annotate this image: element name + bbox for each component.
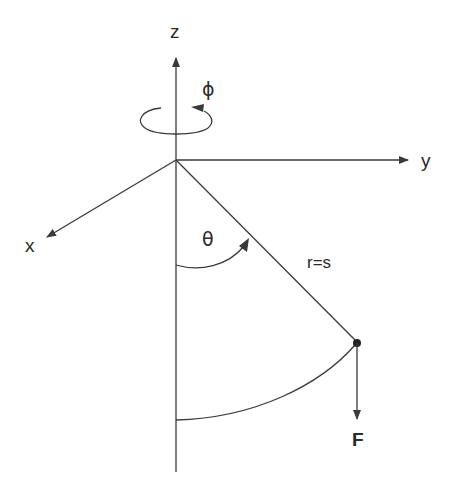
- force-label: F: [352, 430, 364, 449]
- radius-label: r=s: [307, 254, 331, 271]
- y-axis-label: y: [421, 151, 431, 170]
- radius-line: [176, 160, 357, 342]
- trajectory-arc: [176, 345, 355, 420]
- x-axis-line: [47, 160, 176, 237]
- theta-label: θ: [202, 230, 214, 249]
- phi-label: ϕ: [202, 80, 215, 99]
- phi-arrowhead-icon: [191, 104, 204, 112]
- z-axis-label: z: [170, 22, 180, 41]
- diagram-graphics: [0, 0, 458, 497]
- x-axis-label: x: [25, 236, 35, 255]
- spherical-coordinate-diagram: z y x ϕ θ r=s F: [0, 0, 458, 497]
